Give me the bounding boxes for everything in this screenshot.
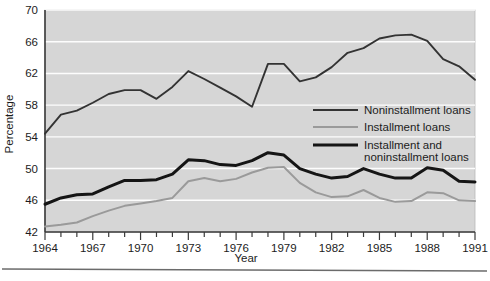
x-tick-label: 1991 [462, 242, 488, 254]
y-axis-tick-labels: 4246505458626670 [25, 4, 38, 238]
legend-label-both-line2: noninstallment loans [364, 151, 469, 163]
y-tick-label: 62 [25, 67, 38, 79]
footer-divider [2, 269, 487, 271]
y-tick-label: 42 [25, 226, 38, 238]
x-tick-label: 1979 [271, 242, 297, 254]
y-tick-label: 54 [25, 131, 38, 143]
x-tick-label: 1988 [414, 242, 440, 254]
y-tick-label: 58 [25, 99, 38, 111]
x-tick-label: 1973 [176, 242, 202, 254]
legend-label-installment: Installment loans [364, 121, 451, 133]
legend-label-noninstallment: Noninstallment loans [364, 104, 471, 116]
x-axis-title: Year [234, 252, 257, 264]
y-tick-label: 66 [25, 36, 38, 48]
x-axis-tick-labels: 1964196719701973197619791982198519881991 [32, 242, 488, 254]
chart-figure: 4246505458626670 19641967197019731976197… [0, 0, 490, 281]
line-chart-svg: 4246505458626670 19641967197019731976197… [0, 0, 490, 281]
y-tick-label: 50 [25, 163, 38, 175]
x-axis-ticks [45, 232, 475, 240]
y-tick-label: 70 [25, 4, 38, 16]
y-axis-title: Percentage [3, 95, 15, 154]
x-tick-label: 1964 [32, 242, 58, 254]
legend-label-both-line1: Installment and [364, 139, 442, 151]
x-tick-label: 1985 [367, 242, 393, 254]
x-tick-label: 1967 [80, 242, 106, 254]
y-tick-label: 46 [25, 194, 38, 206]
x-tick-label: 1970 [128, 242, 154, 254]
x-tick-label: 1982 [319, 242, 345, 254]
